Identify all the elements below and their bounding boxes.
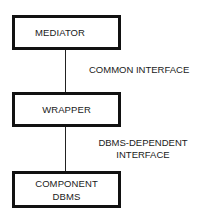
dbms-dependent-interface-label: DBMS-DEPENDENT INTERFACE — [93, 137, 193, 161]
component-label-line1: COMPONENT — [35, 177, 98, 190]
component-label-line2: DBMS — [53, 190, 81, 203]
component-dbms-box: COMPONENT DBMS — [12, 171, 121, 208]
mediator-label: MEDIATOR — [35, 26, 85, 39]
wrapper-box: WRAPPER — [12, 92, 121, 127]
common-interface-label: COMMON INTERFACE — [89, 64, 189, 76]
wrapper-label: WRAPPER — [42, 103, 91, 116]
connector-wrapper-component — [65, 127, 66, 171]
mediator-box: MEDIATOR — [12, 15, 121, 50]
connector-mediator-wrapper — [65, 50, 66, 92]
